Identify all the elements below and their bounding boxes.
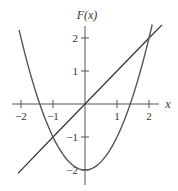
y-tick-label: −2 xyxy=(66,164,78,176)
y-tick-label: 1 xyxy=(73,65,79,77)
y-axis-label: F(x) xyxy=(76,8,98,22)
x-tick-label: 2 xyxy=(146,110,152,122)
x-tick-label: 1 xyxy=(114,110,120,122)
x-tick-label: −2 xyxy=(15,110,27,122)
line-series xyxy=(18,25,162,174)
function-plot: −2 −1 1 2 2 1 −1 −2 x F(x) xyxy=(0,0,178,191)
x-tick-label: −1 xyxy=(47,110,59,122)
parabola-series xyxy=(19,24,152,170)
y-tick-label: −1 xyxy=(66,131,78,143)
y-tick-label: 2 xyxy=(73,32,79,44)
x-axis-label: x xyxy=(164,97,171,111)
